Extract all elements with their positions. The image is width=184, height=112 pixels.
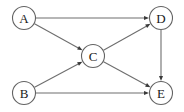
node-d[interactable]: D: [150, 7, 173, 30]
node-b-label: B: [20, 86, 29, 101]
node-c[interactable]: C: [82, 45, 105, 68]
arrowhead-b-to-c-icon: [77, 62, 82, 66]
arrowhead-b-to-e-icon: [144, 91, 149, 95]
edge-c-to-d: [103, 26, 146, 50]
directed-graph-svg: ABCDE: [0, 0, 184, 112]
edge-a-to-c: [35, 24, 79, 48]
graph-canvas: ABCDE: [0, 0, 184, 112]
arrowhead-a-to-d-icon: [144, 16, 149, 20]
node-d-label: D: [156, 11, 165, 26]
node-e[interactable]: E: [150, 82, 173, 105]
node-layer: ABCDE: [13, 7, 173, 105]
node-a[interactable]: A: [13, 7, 36, 30]
arrowhead-c-to-d-icon: [145, 24, 150, 28]
edge-c-to-e: [104, 62, 147, 85]
arrowhead-a-to-c-icon: [77, 46, 82, 50]
edge-b-to-c: [35, 64, 79, 88]
node-c-label: C: [89, 49, 98, 64]
node-e-label: E: [157, 86, 165, 101]
node-b[interactable]: B: [13, 82, 36, 105]
node-a-label: A: [19, 11, 29, 26]
arrowhead-c-to-e-icon: [145, 83, 150, 87]
arrowhead-d-to-e-icon: [159, 76, 163, 81]
